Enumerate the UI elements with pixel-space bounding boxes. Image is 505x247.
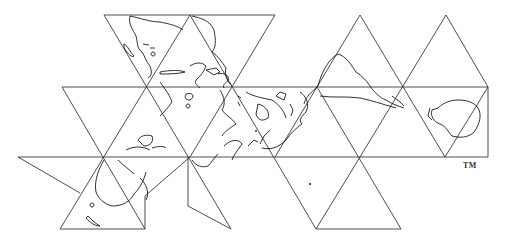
icosahedron-net-grid <box>18 15 488 229</box>
coastlines <box>86 16 480 226</box>
dymaxion-map <box>0 0 505 247</box>
trademark-label: TM <box>463 161 477 170</box>
island-dot <box>309 183 311 185</box>
island-dot <box>255 130 257 132</box>
